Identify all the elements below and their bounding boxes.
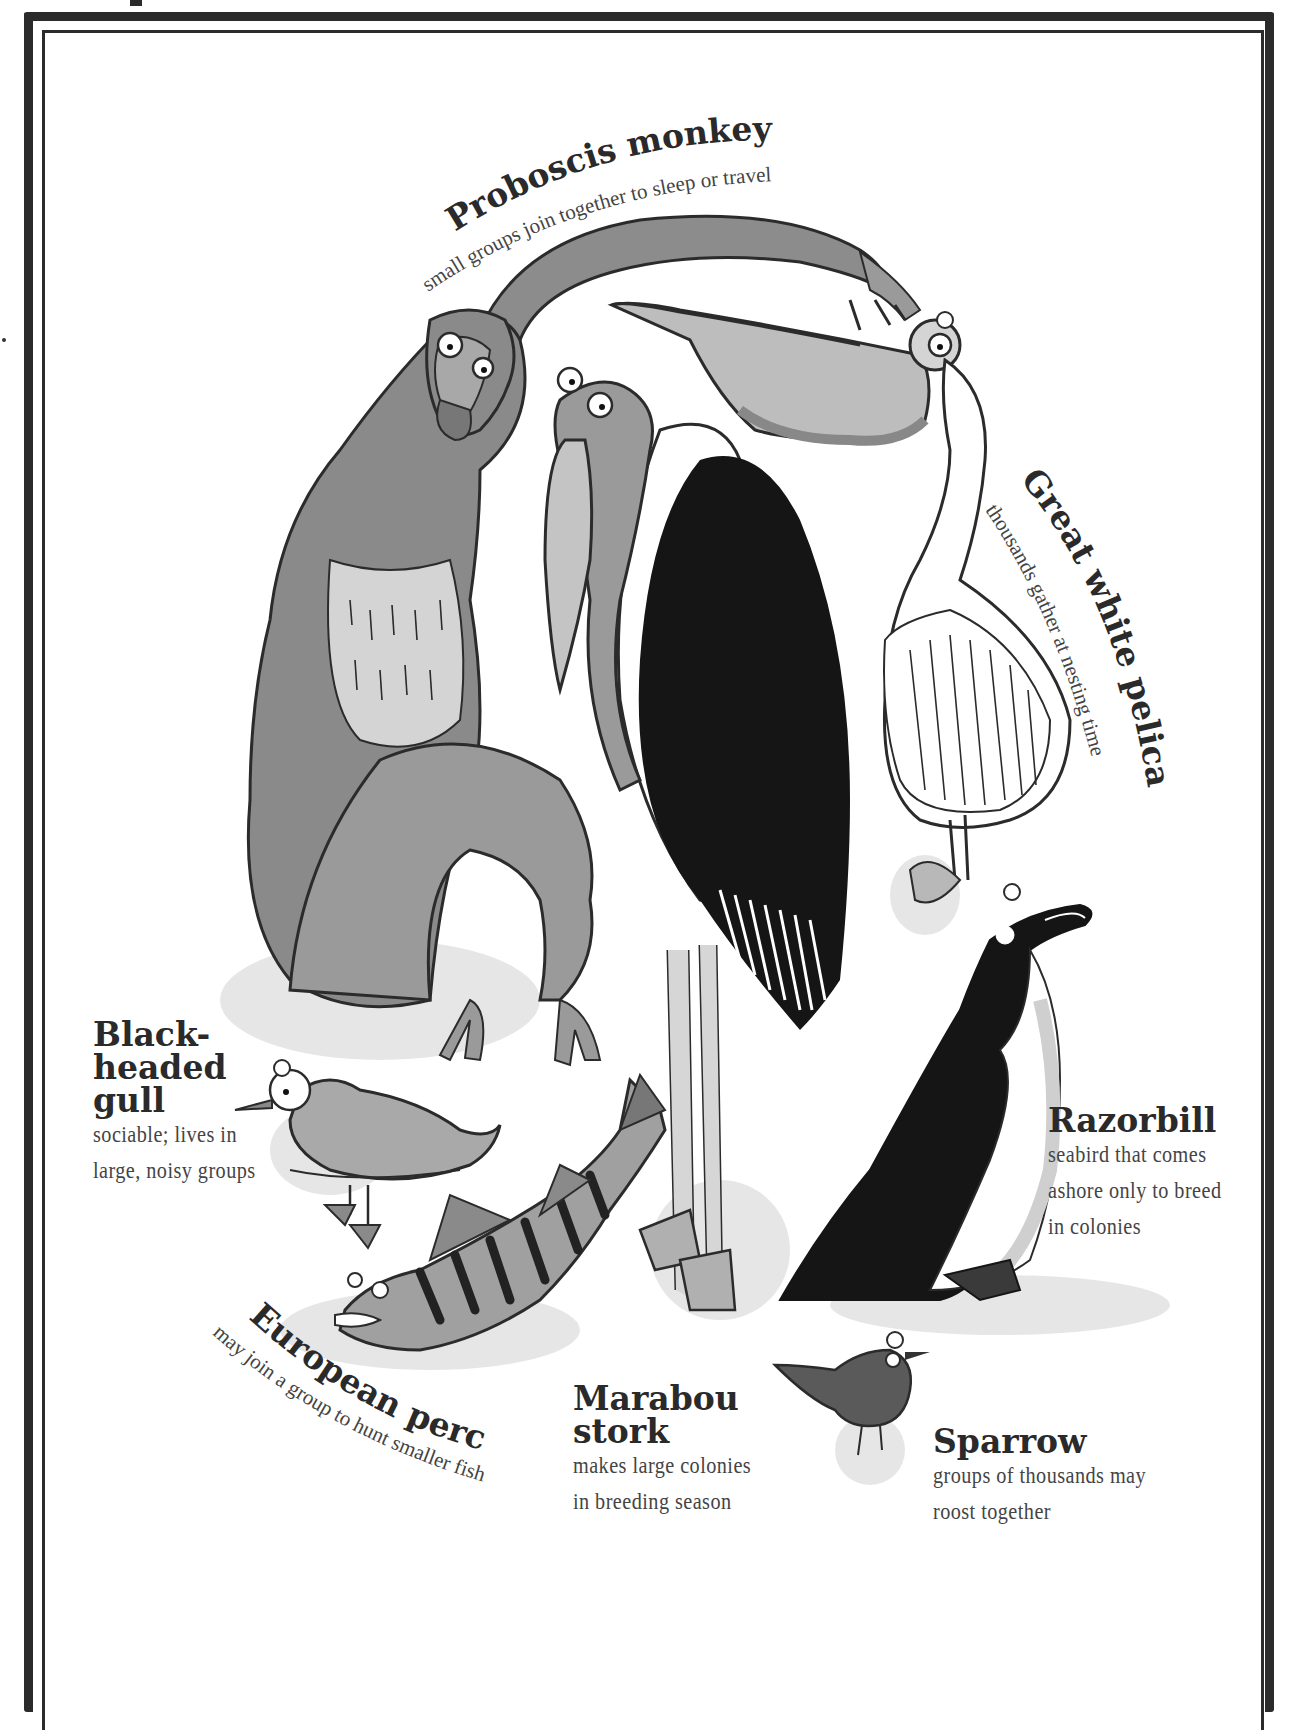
razorbill-desc-line: ashore only to breed — [1048, 1173, 1221, 1209]
sparrow-desc-line: roost together — [933, 1494, 1146, 1530]
stork-desc-line: makes large colonies — [573, 1448, 751, 1484]
gull-desc-line: large, noisy groups — [93, 1153, 256, 1189]
sparrow-label: Sparrow groups of thousands may roost to… — [933, 1425, 1175, 1530]
sparrow-desc-line: groups of thousands may — [933, 1458, 1146, 1494]
marabou-stork-label: Marabou stork makes large colonies in br… — [573, 1382, 775, 1520]
gull-name-line: headed — [93, 1051, 278, 1084]
stork-desc-line: in breeding season — [573, 1484, 751, 1520]
razorbill-name: Razorbill — [1048, 1104, 1245, 1137]
razorbill-desc-line: seabird that comes — [1048, 1137, 1221, 1173]
black-headed-gull-label: Black- headed gull sociable; lives in la… — [93, 1018, 278, 1189]
sparrow-name: Sparrow — [933, 1425, 1175, 1458]
gull-name-line: gull — [93, 1084, 278, 1117]
razorbill-desc-line: in colonies — [1048, 1209, 1221, 1245]
razorbill-label: Razorbill seabird that comes ashore only… — [1048, 1104, 1245, 1245]
stork-name-line: Marabou — [573, 1382, 775, 1415]
gull-name-line: Black- — [93, 1018, 278, 1051]
stork-name-line: stork — [573, 1415, 775, 1448]
gull-desc-line: sociable; lives in — [93, 1117, 256, 1153]
